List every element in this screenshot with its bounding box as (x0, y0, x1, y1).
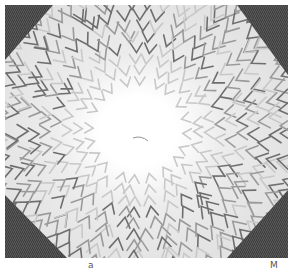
caption-fragment-right: M (270, 260, 278, 270)
artwork-canvas (5, 5, 288, 258)
caption-fragment-left: a (88, 260, 94, 270)
radial-chevron-artwork (5, 5, 288, 258)
